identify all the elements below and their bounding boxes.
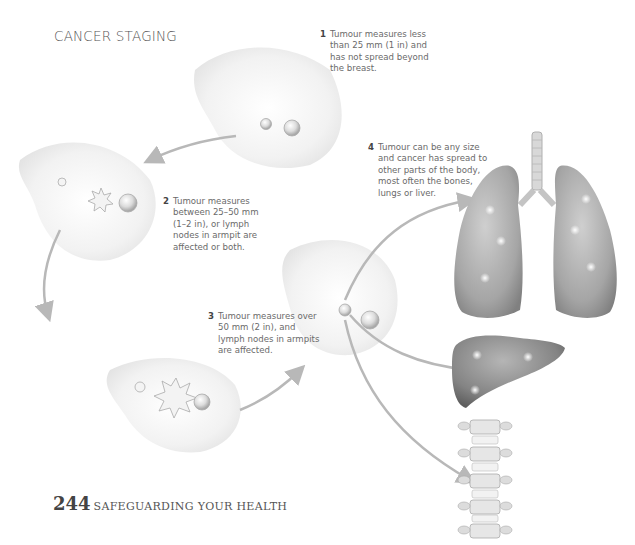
illustration-canvas — [0, 0, 635, 545]
page-footer: 244SAFEGUARDING YOUR HEALTH — [53, 493, 287, 514]
tumour-icon — [581, 194, 591, 204]
tumour-icon — [284, 120, 300, 136]
liver-illustration — [452, 335, 565, 408]
lymph-node-icon — [135, 382, 145, 392]
breast-stage-2-illustration — [19, 143, 156, 261]
tumour-icon — [586, 262, 596, 272]
tumour-icon — [119, 194, 137, 212]
lymph-node-icon — [339, 304, 351, 316]
stage-1-caption: 1 Tumour measures less than 25 mm (1 in)… — [330, 29, 429, 75]
page-title: CANCER STAGING — [54, 28, 177, 44]
tumour-icon — [194, 394, 210, 410]
section-title: SAFEGUARDING YOUR HEALTH — [94, 500, 288, 513]
tumour-icon — [496, 236, 506, 246]
stage-3-caption: 3 Tumour measures over 50 mm (2 in), and… — [218, 311, 319, 357]
stage-number: 3 — [208, 311, 214, 322]
stage-2-caption: 2 Tumour measures between 25–50 mm (1–2 … — [173, 196, 259, 253]
tumour-icon — [485, 205, 495, 215]
tumour-icon — [361, 311, 379, 329]
tumour-icon — [472, 350, 482, 360]
stage-number: 2 — [163, 196, 169, 207]
spine-illustration — [458, 420, 512, 538]
tumour-icon — [470, 385, 480, 395]
stage-4-caption: 4 Tumour can be any size and cancer has … — [378, 142, 487, 199]
tumour-icon — [523, 352, 533, 362]
lymph-node-icon — [58, 178, 66, 186]
lymph-node-icon — [261, 119, 272, 130]
stage-number: 1 — [320, 29, 326, 40]
tumour-icon — [480, 273, 490, 283]
page-number: 244 — [53, 493, 91, 514]
trachea — [532, 132, 542, 190]
stage-number: 4 — [368, 142, 374, 153]
arrow-stage3-to-4 — [240, 370, 300, 410]
tumour-icon — [570, 225, 580, 235]
breast-stage-1-illustration — [194, 48, 342, 169]
breast-stage-3-illustration — [107, 358, 241, 452]
